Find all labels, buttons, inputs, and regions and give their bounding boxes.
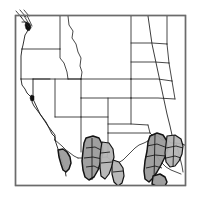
locality-marker-san-francisco-bay: [30, 95, 34, 101]
range-map-figure: [0, 0, 200, 200]
map-canvas: [0, 0, 200, 200]
